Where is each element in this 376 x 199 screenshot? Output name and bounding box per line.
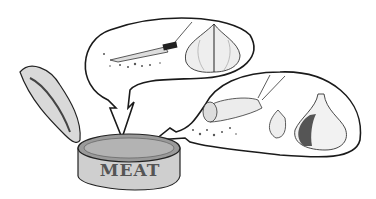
can-label: MEAT: [90, 160, 170, 180]
illustration-drawing: [0, 0, 376, 199]
illustration: MEAT: [0, 0, 376, 199]
can-lid: [20, 66, 80, 142]
